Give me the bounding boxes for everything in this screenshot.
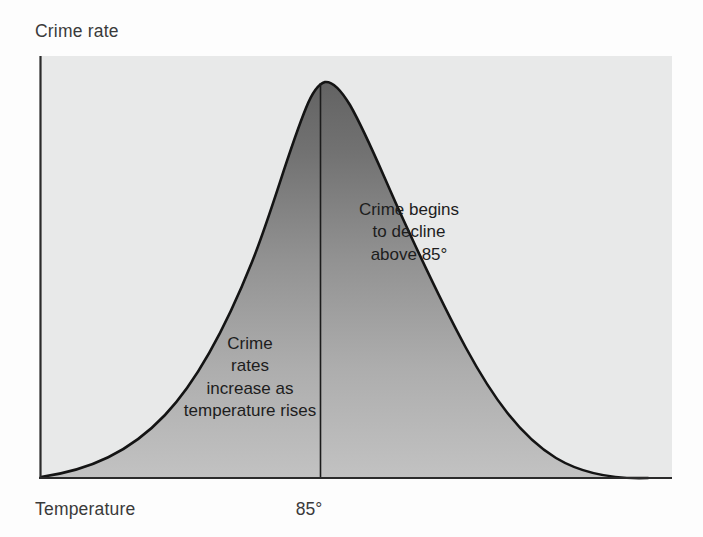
- x-axis-tick-label-85: 85°: [278, 499, 340, 520]
- annotation-right-line-2: to decline: [325, 221, 493, 243]
- annotation-left: Crime rates increase as temperature rise…: [155, 333, 345, 423]
- annotation-left-line-3: increase as: [155, 378, 345, 400]
- annotation-left-line-1: Crime: [155, 333, 345, 355]
- x-axis-title: Temperature: [35, 499, 135, 520]
- crime-rate-temperature-chart: Crime rate Crime rates increase as tempe…: [0, 0, 703, 537]
- annotation-right-line-3: above 85°: [325, 244, 493, 266]
- plot-area: [0, 0, 703, 537]
- annotation-right: Crime begins to decline above 85°: [325, 199, 493, 266]
- annotation-left-line-2: rates: [155, 355, 345, 377]
- annotation-right-line-1: Crime begins: [325, 199, 493, 221]
- annotation-left-line-4: temperature rises: [155, 400, 345, 422]
